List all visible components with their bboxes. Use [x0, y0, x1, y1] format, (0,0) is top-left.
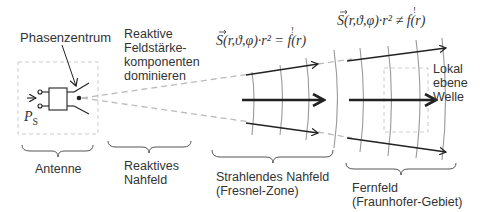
region-label-reactive-near-field: Reaktives Nahfeld — [124, 159, 179, 187]
region-label-antenna: Antenne — [35, 162, 82, 176]
power-symbol: PS — [24, 109, 38, 127]
region-label-radiating-near-field: Strahlendes Nahfeld (Fresnel-Zone) — [216, 170, 329, 198]
phase-center-dot — [77, 96, 82, 101]
power-symbol-letter: P — [24, 109, 33, 124]
near-field-exclamation: ! — [291, 25, 294, 35]
vector-accents — [219, 10, 347, 34]
far-field-exclamation: ! — [413, 5, 416, 15]
near-field-formula: S(r,ϑ,φ)·r² = f(r) — [216, 33, 306, 49]
region-label-far-field: Fernfeld (Fraunhofer-Gebiet) — [352, 181, 462, 209]
reactive-components-label: Reaktive Feldstärke- komponenten dominie… — [124, 27, 200, 83]
far-field-formula: S(r,ϑ,φ)·r² ≠ f(r) — [337, 13, 425, 29]
phase-center-pointer — [62, 45, 76, 86]
power-subscript: S — [33, 116, 39, 127]
phase-center-label: Phasenzentrum — [20, 31, 111, 45]
local-plane-wave-label: Lokal ebene Welle — [433, 62, 468, 104]
beam-edges — [82, 59, 352, 138]
antenna-field-regions-diagram: Phasenzentrum Reaktive Feldstärke- kompo… — [0, 0, 480, 212]
